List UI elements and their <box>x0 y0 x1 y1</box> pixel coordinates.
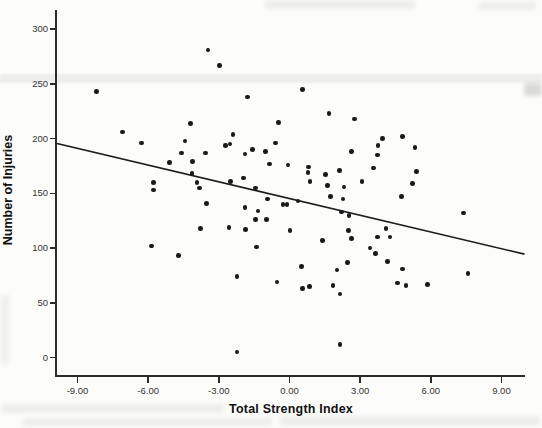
data-point <box>228 179 233 184</box>
data-point <box>300 87 305 92</box>
data-point <box>286 163 291 168</box>
data-point <box>425 282 430 287</box>
y-tick-mark <box>50 138 56 140</box>
data-point <box>346 228 351 233</box>
data-point <box>149 244 154 249</box>
data-point <box>120 130 125 135</box>
data-point <box>338 342 343 347</box>
data-point <box>339 210 344 215</box>
data-point <box>342 185 347 190</box>
y-tick-label: 50 <box>22 298 48 308</box>
data-point <box>461 211 466 216</box>
data-point <box>399 194 404 199</box>
y-tick-mark <box>50 247 56 249</box>
y-tick-mark <box>50 357 56 359</box>
data-point <box>384 226 389 231</box>
y-tick-label: 250 <box>22 79 48 89</box>
x-axis-title: Total Strength Index <box>57 402 525 416</box>
data-point <box>276 120 281 125</box>
x-tick-label: 0.00 <box>269 386 309 396</box>
data-point <box>306 165 311 170</box>
scan-artifact <box>22 418 272 426</box>
data-point <box>296 199 301 204</box>
data-point <box>190 159 195 164</box>
scan-artifact <box>0 295 10 365</box>
data-point <box>371 166 376 171</box>
data-point <box>299 264 304 269</box>
data-point <box>380 136 385 141</box>
data-point <box>325 183 330 188</box>
data-point <box>235 274 240 279</box>
data-point <box>227 225 232 230</box>
data-point <box>243 227 248 232</box>
data-point <box>400 267 405 272</box>
y-axis-title: Number of Injuries <box>1 115 15 265</box>
scan-artifact <box>280 416 540 426</box>
data-point <box>264 217 269 222</box>
data-point <box>404 283 409 288</box>
data-point <box>253 186 258 191</box>
data-point <box>376 143 381 148</box>
scan-artifact <box>265 0 415 9</box>
y-tick-label: 100 <box>22 243 48 253</box>
data-point <box>413 145 418 150</box>
data-point <box>206 48 211 53</box>
data-point <box>327 111 332 116</box>
data-point <box>195 180 200 185</box>
data-point <box>331 283 336 288</box>
data-point <box>176 253 181 258</box>
data-point <box>328 194 333 199</box>
data-point <box>349 149 354 154</box>
y-tick-label: 150 <box>22 188 48 198</box>
data-point <box>368 246 373 251</box>
data-point <box>352 117 357 122</box>
data-point <box>250 147 255 152</box>
data-point <box>228 142 233 147</box>
data-point <box>167 160 172 165</box>
data-point <box>197 186 202 191</box>
data-point <box>300 286 305 291</box>
data-point <box>306 170 311 175</box>
data-point <box>204 201 209 206</box>
data-point <box>241 176 246 181</box>
data-point <box>375 153 380 158</box>
scan-artifact <box>0 74 542 83</box>
x-tick-mark <box>359 377 361 383</box>
data-point <box>388 235 393 240</box>
data-point <box>203 151 208 156</box>
x-tick-label: -3.00 <box>199 386 239 396</box>
data-point <box>395 281 400 286</box>
data-point <box>273 141 278 146</box>
data-point <box>288 228 293 233</box>
data-point <box>151 188 156 193</box>
data-point <box>385 259 390 264</box>
data-point <box>231 132 236 137</box>
y-tick-mark <box>50 193 56 195</box>
data-point <box>360 179 365 184</box>
x-tick-label: -9.00 <box>57 386 97 396</box>
y-tick-label: 0 <box>22 353 48 363</box>
data-point <box>285 202 290 207</box>
data-point <box>217 63 222 68</box>
x-tick-mark <box>77 377 79 383</box>
x-tick-mark <box>430 377 432 383</box>
data-point <box>243 205 248 210</box>
x-tick-label: 3.00 <box>340 386 380 396</box>
data-point <box>320 238 325 243</box>
x-tick-mark <box>147 377 149 383</box>
x-tick-mark <box>218 377 220 383</box>
data-point <box>349 236 354 241</box>
data-point <box>323 172 328 177</box>
regression-line <box>57 144 525 255</box>
data-point <box>256 209 261 214</box>
data-point <box>345 260 350 265</box>
data-point <box>190 171 195 176</box>
data-point <box>263 149 268 154</box>
y-tick-mark <box>50 28 56 30</box>
y-tick-mark <box>50 83 56 85</box>
data-point <box>235 350 240 355</box>
x-tick-mark <box>289 377 291 383</box>
scatterplot-figure: 050100150200250300 -9.00-6.00-3.000.003.… <box>0 0 542 428</box>
data-point <box>337 168 342 173</box>
data-point <box>338 292 343 297</box>
